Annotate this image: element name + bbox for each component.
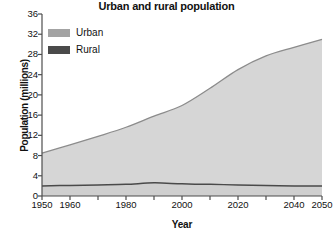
- legend-label: Urban: [76, 28, 103, 38]
- y-axis-tick-label: 32: [16, 29, 38, 39]
- x-axis-tick-label: 2020: [227, 200, 248, 210]
- y-axis-tick-label: 8: [16, 151, 38, 161]
- x-axis-tick-label: 2050: [311, 200, 332, 210]
- legend-swatch-icon: [48, 46, 70, 54]
- chart-container: Urban and rural population Population (m…: [0, 0, 333, 235]
- y-axis-tick-label: 20: [16, 90, 38, 100]
- y-axis-tick-label: 16: [16, 110, 38, 120]
- y-axis-tick-label: 24: [16, 70, 38, 80]
- y-axis-tick-label: 4: [16, 171, 38, 181]
- x-axis-tick-label: 1980: [115, 200, 136, 210]
- x-axis-tick-label: 2000: [171, 200, 192, 210]
- x-axis-tick-label: 2040: [283, 200, 304, 210]
- chart-title: Urban and rural population: [0, 0, 333, 13]
- legend-swatch-icon: [48, 29, 70, 37]
- legend-label: Rural: [76, 45, 100, 55]
- x-axis-tick-labels: 1950196019802000202020402050: [0, 199, 333, 213]
- legend-item[interactable]: Urban: [48, 26, 134, 40]
- y-axis-tick-label: 28: [16, 49, 38, 59]
- x-axis-label: Year: [42, 219, 322, 230]
- legend-item[interactable]: Rural: [48, 43, 134, 57]
- urban-area: [42, 39, 322, 186]
- chart-legend: UrbanRural: [48, 26, 134, 60]
- x-axis-tick-label: 1950: [31, 200, 52, 210]
- y-axis-tick-label: 36: [16, 9, 38, 19]
- y-axis-tick-label: 12: [16, 130, 38, 140]
- x-axis-tick-label: 1960: [59, 200, 80, 210]
